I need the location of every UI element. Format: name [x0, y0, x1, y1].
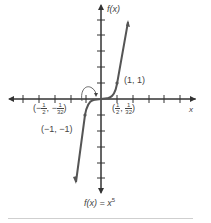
- point-1-1: [115, 81, 118, 84]
- point-label-1-1: (1, 1): [124, 76, 145, 85]
- point-label-neg-half: (−12, −132): [33, 102, 67, 115]
- graph-canvas: [0, 0, 211, 223]
- point-label-neg1-neg1: (−1, −1): [41, 125, 73, 134]
- y-axis-label: f(x): [107, 5, 120, 14]
- x-axis-label: x: [189, 106, 193, 114]
- point-neg1-neg1: [83, 113, 86, 116]
- chart-caption: f(x) = x5: [84, 197, 115, 208]
- point-label-pos-half: (12, 132): [112, 102, 135, 115]
- divider: [8, 218, 193, 219]
